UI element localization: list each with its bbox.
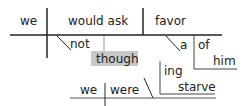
main-object: favor: [155, 14, 186, 28]
conjunction: though: [96, 52, 138, 66]
sentence-diagram: we would ask favor not a of him though w…: [0, 0, 246, 106]
subordinate-verb: were: [110, 83, 139, 97]
main-subject: we: [20, 14, 37, 28]
object-article: a: [180, 38, 187, 52]
complement-slant: [144, 78, 153, 98]
complement-ing: ing: [164, 64, 183, 78]
verb-adverb: not: [70, 37, 90, 51]
complement-word: starve: [178, 80, 216, 94]
object-preposition: of: [198, 38, 210, 52]
subordinate-subject: we: [80, 83, 97, 97]
a-slant: [166, 36, 180, 51]
preposition-object: him: [213, 54, 236, 68]
main-verb: would ask: [68, 14, 128, 28]
not-slant: [57, 36, 71, 50]
